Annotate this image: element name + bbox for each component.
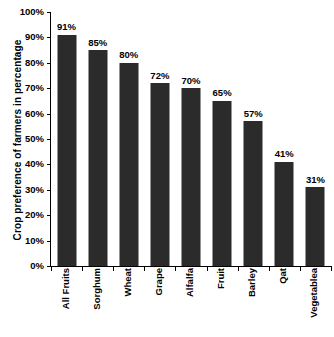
y-axis-tick-label: 10% — [0, 236, 44, 246]
bar-slot: 31% — [300, 12, 331, 266]
bar-value-label: 85% — [88, 38, 107, 48]
bar-value-label: 65% — [213, 88, 232, 98]
x-axis-category-label: Barley — [247, 268, 257, 297]
y-axis-tick-label: 80% — [0, 58, 44, 68]
bar-value-label: 72% — [150, 71, 169, 81]
y-axis-tick-label: 50% — [0, 134, 44, 144]
bar-slot: 85% — [82, 12, 113, 266]
y-axis-tick-label: 90% — [0, 33, 44, 43]
bar-slot: 72% — [144, 12, 175, 266]
x-label-slot: Wheat — [112, 268, 143, 337]
bar-value-label: 80% — [119, 50, 138, 60]
bar-slot: 80% — [113, 12, 144, 266]
y-axis-tick-mark — [47, 12, 51, 13]
bar[interactable] — [275, 162, 294, 266]
x-label-slot: Vegetablea — [299, 268, 330, 337]
bar[interactable] — [57, 35, 76, 266]
x-axis-category-label: Fruit — [216, 268, 226, 289]
bar[interactable] — [88, 50, 107, 266]
x-label-slot: Sorghum — [81, 268, 112, 337]
x-axis-category-label: Sorghum — [92, 268, 102, 310]
y-axis-tick-mark — [47, 139, 51, 140]
bar-slot: 41% — [269, 12, 300, 266]
x-axis-category-label: All Fruits — [61, 268, 71, 309]
y-axis-tick-mark — [47, 63, 51, 64]
y-axis-tick-label: 40% — [0, 160, 44, 170]
y-axis-tick-mark — [47, 215, 51, 216]
y-axis-tick-mark — [47, 37, 51, 38]
bar[interactable] — [150, 83, 169, 266]
y-axis-tick-label: 30% — [0, 185, 44, 195]
x-label-slot: Grape — [143, 268, 174, 337]
bar-slot: 70% — [175, 12, 206, 266]
y-axis-tick-mark — [47, 164, 51, 165]
bar[interactable] — [244, 121, 263, 266]
x-label-slot: Qat — [268, 268, 299, 337]
bar[interactable] — [181, 88, 200, 266]
plot-area: 91%85%80%72%70%65%57%41%31% — [50, 12, 331, 267]
bar-series: 91%85%80%72%70%65%57%41%31% — [51, 12, 331, 266]
bar-chart: Crop preference of farmers in percentage… — [0, 0, 334, 337]
bar-slot: 65% — [207, 12, 238, 266]
bar-value-label: 70% — [181, 76, 200, 86]
bar[interactable] — [213, 101, 232, 266]
y-axis-tick-mark — [47, 88, 51, 89]
y-axis-tick-mark — [47, 190, 51, 191]
bar[interactable] — [119, 63, 138, 266]
bar-slot: 91% — [51, 12, 82, 266]
y-axis-tick-mark — [47, 114, 51, 115]
x-axis-category-label: Qat — [279, 268, 289, 284]
x-label-slot: All Fruits — [50, 268, 81, 337]
x-axis-category-label: Grape — [154, 268, 164, 295]
y-axis-tick-label: 20% — [0, 210, 44, 220]
x-axis-category-label: Vegetablea — [310, 268, 320, 318]
x-axis-tick-labels: All FruitsSorghumWheatGrapeAlfalfaFruitB… — [50, 268, 330, 337]
y-axis-tick-label: 0% — [0, 261, 44, 271]
x-axis-category-label: Alfalfa — [185, 268, 195, 297]
bar-value-label: 41% — [275, 149, 294, 159]
y-axis-tick-label: 70% — [0, 83, 44, 93]
y-axis-tick-mark — [47, 241, 51, 242]
x-label-slot: Barley — [237, 268, 268, 337]
y-axis-tick-label: 100% — [0, 7, 44, 17]
x-axis-tick-mark — [331, 266, 332, 271]
x-label-slot: Fruit — [206, 268, 237, 337]
x-label-slot: Alfalfa — [174, 268, 205, 337]
y-axis-tick-labels: 0%10%20%30%40%50%60%70%80%90%100% — [0, 0, 47, 337]
bar-value-label: 91% — [57, 22, 76, 32]
bar-slot: 57% — [238, 12, 269, 266]
y-axis-tick-label: 60% — [0, 109, 44, 119]
bar-value-label: 31% — [306, 175, 325, 185]
x-axis-category-label: Wheat — [123, 268, 133, 297]
bar[interactable] — [306, 187, 325, 266]
bar-value-label: 57% — [244, 109, 263, 119]
